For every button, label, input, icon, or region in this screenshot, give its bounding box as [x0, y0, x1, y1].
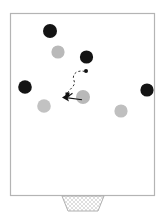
player-dark-4: [140, 83, 153, 96]
goal-with-net: [62, 196, 104, 211]
marker-block-icon: [66, 93, 70, 97]
goal-net-shape: [62, 196, 104, 211]
player-dark-3: [18, 80, 32, 94]
player-dark-2: [80, 50, 93, 63]
playing-field-boundary: [11, 14, 155, 196]
diagram-canvas: [0, 0, 165, 221]
player-dark-1: [43, 24, 57, 38]
soccer-play-diagram: [0, 0, 165, 221]
player-light-1: [51, 45, 64, 58]
player-light-4: [114, 104, 127, 117]
player-light-3: [37, 99, 51, 113]
player-light-2: [76, 90, 90, 104]
